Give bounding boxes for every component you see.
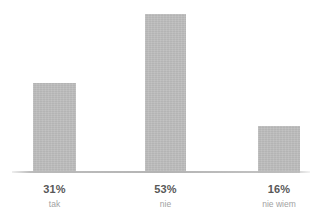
label-group-tak: 31% tak xyxy=(10,173,100,210)
category-label-nie-wiem: nie wiem xyxy=(234,198,323,210)
value-label-nie: 53% xyxy=(121,181,211,197)
label-group-nie-wiem: 16% nie wiem xyxy=(234,173,323,210)
value-label-nie-wiem: 16% xyxy=(234,181,323,197)
category-axis-labels: 31% tak 53% nie 16% nie wiem xyxy=(0,173,323,222)
category-label-nie: nie xyxy=(121,198,211,210)
category-label-tak: tak xyxy=(10,198,100,210)
value-label-tak: 31% xyxy=(10,181,100,197)
bar-chart: 31% tak 53% nie 16% nie wiem xyxy=(0,0,323,222)
plot-area xyxy=(0,0,323,173)
bar-tak xyxy=(33,83,76,173)
bar-nie xyxy=(145,14,186,173)
label-group-nie: 53% nie xyxy=(121,173,211,210)
bar-nie-wiem xyxy=(258,126,300,173)
